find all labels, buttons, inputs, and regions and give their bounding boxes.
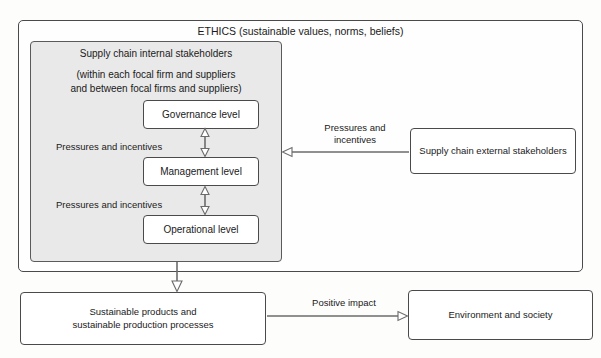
operational-level-label: Operational level [143, 215, 259, 244]
positive-impact-label: Positive impact [283, 297, 405, 308]
sustainable-products-label: Sustainable products and sustainable pro… [20, 292, 266, 345]
diagram-canvas: ETHICS (sustainable values, norms, belie… [0, 0, 601, 358]
pressures-incentives-label-governance-management: Pressures and incentives [56, 141, 162, 152]
ethics-title: ETHICS (sustainable values, norms, belie… [18, 24, 583, 38]
products-to-environment-arrow [267, 312, 408, 321]
external-pressures-incentives-label: Pressures and incentives [305, 122, 405, 147]
internal-stakeholders-subtitle: (within each focal firm and suppliers an… [30, 68, 282, 95]
internal-stakeholders-title: Supply chain internal stakeholders [30, 47, 282, 61]
governance-level-label: Governance level [143, 100, 259, 129]
management-level-label: Management level [143, 157, 259, 186]
external-stakeholders-label: Supply chain external stakeholders [410, 128, 576, 174]
pressures-incentives-label-management-operational: Pressures and incentives [56, 199, 162, 210]
environment-society-label: Environment and society [408, 290, 593, 340]
